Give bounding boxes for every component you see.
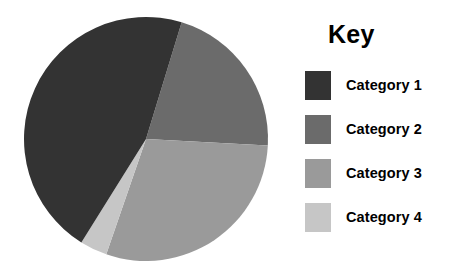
chart-legend: Key Category 1Category 2Category 3Catego… bbox=[300, 0, 469, 274]
pie-chart-svg bbox=[0, 0, 290, 274]
legend-item-label: Category 3 bbox=[346, 165, 422, 181]
legend-title: Key bbox=[328, 22, 375, 47]
pie-chart-figure: Key Category 1Category 2Category 3Catego… bbox=[0, 0, 469, 274]
legend-item-list: Category 1Category 2Category 3Category 4 bbox=[305, 70, 469, 246]
legend-item-label: Category 4 bbox=[346, 209, 422, 225]
legend-swatch-icon bbox=[305, 159, 331, 188]
legend-item[interactable]: Category 3 bbox=[305, 158, 469, 188]
legend-item[interactable]: Category 1 bbox=[305, 70, 469, 100]
legend-item[interactable]: Category 4 bbox=[305, 202, 469, 232]
legend-swatch-icon bbox=[305, 115, 331, 144]
legend-item-label: Category 1 bbox=[346, 77, 422, 93]
legend-item-label: Category 2 bbox=[346, 121, 422, 137]
legend-item[interactable]: Category 2 bbox=[305, 114, 469, 144]
legend-swatch-icon bbox=[305, 71, 331, 100]
legend-swatch-icon bbox=[305, 203, 331, 232]
pie-chart-area bbox=[0, 0, 290, 274]
pie-slice-group bbox=[24, 17, 268, 261]
